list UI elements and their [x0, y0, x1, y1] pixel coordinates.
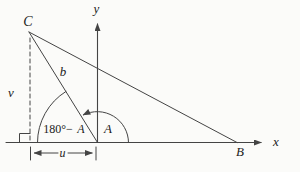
- x-axis-label: x: [272, 134, 279, 149]
- vertex-c-label: C: [23, 14, 33, 29]
- right-angle-marker: [20, 134, 31, 143]
- trig-figure-canvas: C B x y v u b A 180°− A: [0, 0, 300, 172]
- angle-a-label: A: [103, 121, 112, 136]
- obtuse-triangle-diagram: C B x y v u b A 180°− A: [0, 0, 300, 172]
- base-u-label: u: [60, 146, 66, 160]
- vertex-b-label: B: [236, 144, 244, 159]
- side-b-label: b: [60, 64, 67, 79]
- angle-supplement-label: 180°− A: [43, 122, 85, 136]
- angle-supplement-prefix: 180°−: [43, 122, 73, 136]
- altitude-v-label: v: [8, 85, 14, 100]
- y-axis-label: y: [92, 1, 100, 16]
- angle-supplement-variable: A: [76, 122, 85, 136]
